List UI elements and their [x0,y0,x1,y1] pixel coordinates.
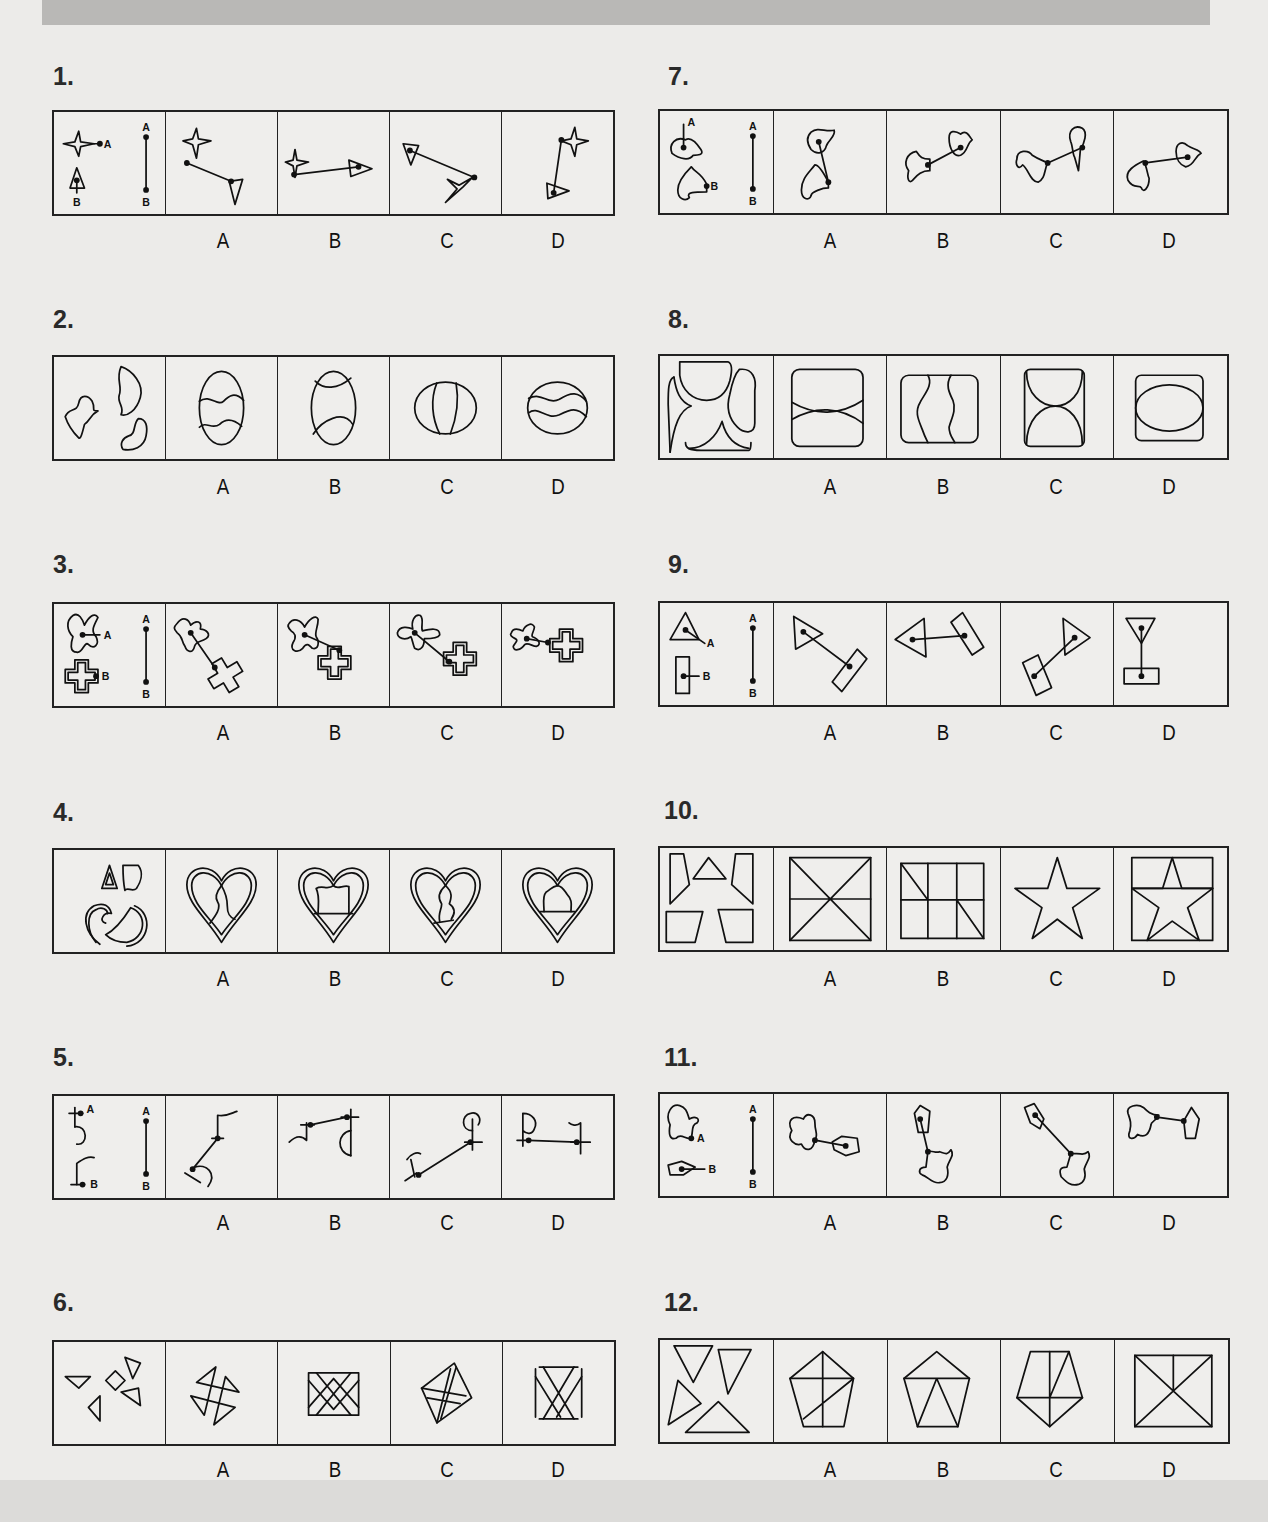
q1-option-c[interactable] [389,112,501,214]
q12-option-d[interactable] [1114,1340,1228,1442]
q7-label-d: D [1156,228,1182,254]
q12-label-a: A [817,1457,843,1483]
q7-option-d[interactable] [1113,111,1227,213]
q3-option-d[interactable] [501,604,613,706]
svg-text:A: A [142,613,150,625]
question-number-9: 9. [668,550,689,579]
question-number-11: 11. [664,1043,697,1072]
q5-option-b[interactable] [277,1096,389,1198]
q8-label-a: A [817,474,843,500]
q8-option-b[interactable] [886,356,1000,458]
q7-option-b[interactable] [886,111,1000,213]
q3-option-a[interactable] [165,604,277,706]
q6-option-b[interactable] [277,1342,389,1444]
q2-label-d: D [545,474,571,500]
q1-option-d[interactable] [501,112,613,214]
q3-option-b[interactable] [277,604,389,706]
q2-option-b[interactable] [277,357,389,459]
svg-text:B: B [749,1178,757,1190]
q4-option-a[interactable] [165,850,277,952]
q4-option-d[interactable] [501,850,613,952]
q8-option-a[interactable] [773,356,887,458]
q6-option-a[interactable] [165,1342,277,1444]
q10-option-d[interactable] [1113,848,1227,950]
q1-label-a: A [210,228,236,254]
q2-option-c[interactable] [389,357,501,459]
q12-option-b[interactable] [887,1340,1001,1442]
question-number-8: 8. [668,305,689,334]
q11-option-c[interactable] [1000,1094,1114,1196]
q4-option-b[interactable] [277,850,389,952]
q12-given-cell [660,1340,773,1442]
q6-given-cell [54,1342,165,1444]
q8-label-b: B [930,474,956,500]
q2-label-b: B [322,474,348,500]
q3-label-a: A [210,720,236,746]
q2-label-c: C [434,474,460,500]
q12-option-c[interactable] [1000,1340,1114,1442]
q5-option-d[interactable] [501,1096,613,1198]
q1-given-figure: A B A B [54,112,165,214]
q9-option-b[interactable] [886,603,1000,705]
q10-option-c[interactable] [1000,848,1114,950]
q10-option-b[interactable] [886,848,1000,950]
header-bar [42,0,1210,25]
q7-label-a: A [817,228,843,254]
q1-label-d: D [545,228,571,254]
question-2-strip [52,355,615,461]
q5-option-c[interactable] [389,1096,501,1198]
q8-option-c[interactable] [1000,356,1114,458]
q11-option-a[interactable] [773,1094,887,1196]
q6-option-c[interactable] [390,1342,502,1444]
q11-option-d[interactable] [1113,1094,1227,1196]
q1-option-a[interactable] [165,112,277,214]
q9-option-c[interactable] [1000,603,1114,705]
q10-label-c: C [1043,966,1069,992]
svg-text:B: B [711,180,719,192]
q1-option-b[interactable] [277,112,389,214]
q11-label-a: A [817,1210,843,1236]
question-number-5: 5. [53,1043,74,1072]
q9-option-a[interactable] [773,603,887,705]
q2-given-cell [54,357,165,459]
q5-option-a[interactable] [165,1096,277,1198]
q7-given-cell: ABAB [660,111,773,213]
q9-label-d: D [1156,720,1182,746]
svg-text:A: A [104,138,112,150]
q1-label-c: C [434,228,460,254]
q10-label-a: A [817,966,843,992]
q3-option-c[interactable] [389,604,501,706]
q9-label-a: A [817,720,843,746]
q7-option-a[interactable] [773,111,887,213]
q7-option-c[interactable] [1000,111,1114,213]
q10-option-a[interactable] [773,848,887,950]
svg-text:A: A [749,120,757,132]
q1-given-cell: A B A B [54,112,165,214]
svg-text:A: A [687,116,695,128]
q6-option-d[interactable] [502,1342,614,1444]
svg-text:B: B [102,670,110,682]
q3-label-c: C [434,720,460,746]
q11-option-b[interactable] [886,1094,1000,1196]
question-number-6: 6. [53,1288,74,1317]
question-number-3: 3. [53,550,74,579]
q12-label-c: C [1043,1457,1069,1483]
q9-label-b: B [930,720,956,746]
question-number-7: 7. [668,62,689,91]
svg-text:B: B [142,688,150,700]
svg-text:B: B [709,1163,717,1175]
svg-text:B: B [749,195,757,207]
q8-option-d[interactable] [1113,356,1227,458]
svg-text:B: B [90,1178,98,1190]
svg-text:B: B [749,687,757,699]
q6-label-c: C [434,1457,460,1483]
q12-option-a[interactable] [773,1340,887,1442]
q9-option-d[interactable] [1113,603,1227,705]
svg-text:A: A [749,612,757,624]
q2-option-a[interactable] [165,357,277,459]
svg-text:A: A [697,1132,705,1144]
q2-option-d[interactable] [501,357,613,459]
q4-option-c[interactable] [389,850,501,952]
q8-given-cell [660,356,773,458]
question-10-strip [658,846,1229,952]
